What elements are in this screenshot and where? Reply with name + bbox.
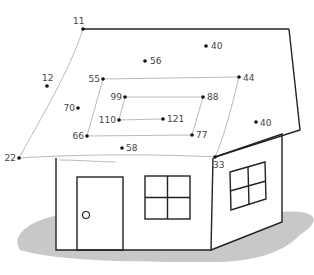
connect-the-dots-house-drawing: 115640125544709988110121406677225833 [0,0,314,275]
dot-marker [254,120,258,124]
dot-22: 22 [5,153,21,163]
dot-label: 40 [260,118,272,128]
dot-label: 22 [5,153,16,163]
dot-label: 40 [211,41,223,51]
dot-label: 121 [167,114,184,124]
dot-66: 66 [73,131,89,141]
dot-label: 33 [213,160,224,170]
dot-marker [161,117,165,121]
dot-56: 56 [143,56,162,66]
dot-label: 88 [207,92,219,102]
dot-label: 55 [89,74,100,84]
dot-marker [237,75,241,79]
guide-spiral-1 [103,77,239,79]
dot-marker [76,106,80,110]
dot-marker [201,95,205,99]
guide-outer-roof-bottom [19,155,215,158]
dot-marker [213,155,217,159]
dot-marker [81,27,85,31]
dot-label: 11 [73,16,84,26]
dot-88: 88 [201,92,219,102]
dot-marker [120,146,124,150]
dot-label: 77 [196,130,207,140]
worksheet-canvas: 115640125544709988110121406677225833 [0,0,314,275]
dot-40: 40 [254,118,272,128]
dot-marker [101,77,105,81]
dot-marker [85,134,89,138]
guide-outer-roof-right [215,77,239,157]
dot-11: 11 [73,16,85,31]
dot-110: 110 [99,115,121,125]
dot-label: 12 [42,73,53,83]
dot-label: 58 [126,143,138,153]
dot-label: 44 [243,73,255,83]
dot-label: 56 [150,56,162,66]
dot-marker [204,44,208,48]
dot-marker [190,133,194,137]
dot-70: 70 [64,103,80,113]
dot-marker [17,156,21,160]
house-outline [56,29,300,250]
dot-58: 58 [120,143,138,153]
dot-marker [123,95,127,99]
dot-40: 40 [204,41,223,51]
dot-12: 12 [42,73,53,88]
dot-44: 44 [237,73,255,83]
dot-label: 66 [73,131,85,141]
dot-label: 99 [111,92,123,102]
dot-label: 70 [64,103,76,113]
dot-marker [143,59,147,63]
roof-gable [215,29,300,157]
dot-label: 110 [99,115,116,125]
dot-marker [117,118,121,122]
dot-marker [45,84,49,88]
dot-121: 121 [161,114,184,124]
guide-spiral-2 [87,79,203,136]
numbered-dots: 115640125544709988110121406677225833 [5,16,272,170]
